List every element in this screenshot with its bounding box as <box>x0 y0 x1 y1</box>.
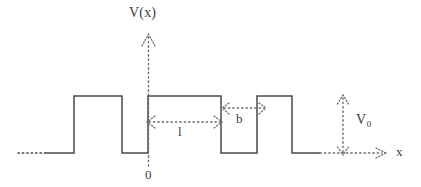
potential-curve-solid <box>45 96 320 153</box>
height-v0-label-subscript: 0 <box>367 119 372 129</box>
y-axis-label: V(x) <box>129 6 156 20</box>
width-l-arrow-group <box>147 116 222 128</box>
y-axis-arrowhead-icon <box>142 34 155 46</box>
width-b-label: b <box>236 112 243 125</box>
height-v0-label-main: V <box>356 112 366 127</box>
width-l-label: l <box>178 125 182 138</box>
potential-diagram-figure: V(x) 0 l b x V0 <box>0 0 421 187</box>
height-v0-arrow-group <box>338 95 349 155</box>
potential-plot-svg <box>0 0 421 187</box>
height-v0-label: V0 <box>356 113 371 127</box>
width-b-arrow-group <box>222 103 266 114</box>
origin-label: 0 <box>145 168 152 181</box>
x-axis-label: x <box>396 145 403 158</box>
x-axis-group <box>320 148 386 158</box>
potential-curve-group <box>45 96 320 153</box>
